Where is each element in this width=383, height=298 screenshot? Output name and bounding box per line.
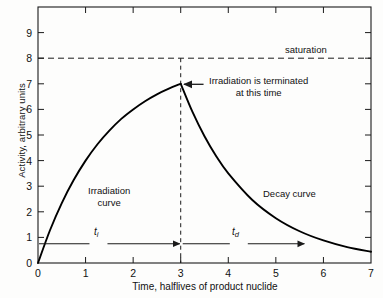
y-tick-label: 8 <box>26 52 32 64</box>
saturation-label: saturation <box>285 44 327 55</box>
termination-annotation-line1: Irradiation is terminated <box>209 75 308 86</box>
irradiation-curve-label-line2: curve <box>98 197 121 208</box>
x-tick-label: 3 <box>178 267 184 279</box>
y-axis-ticks <box>38 33 44 238</box>
irradiation-curve <box>38 84 181 263</box>
x-tick-label: 6 <box>321 267 327 279</box>
t-i-subscript: i <box>97 230 99 239</box>
x-tick-label: 5 <box>273 267 279 279</box>
x-axis-ticks-top <box>86 7 324 13</box>
x-tick-label: 4 <box>225 267 231 279</box>
x-tick-label: 0 <box>35 267 41 279</box>
t-d-subscript: d <box>235 230 239 239</box>
y-tick-label: 1 <box>26 231 32 243</box>
decay-curve <box>181 84 371 252</box>
y-tick-label: 3 <box>26 180 32 192</box>
x-axis-ticks <box>86 257 324 263</box>
t-d-label: td <box>232 226 239 240</box>
decay-curve-label: Decay curve <box>263 188 316 199</box>
y-axis-ticks-right <box>365 33 371 238</box>
x-axis-tick-labels: 01234567 <box>35 267 374 279</box>
y-axis-label: Activity, arbitrary units <box>16 56 27 206</box>
y-tick-label: 9 <box>26 27 32 39</box>
y-tick-label: 0 <box>26 257 32 269</box>
y-tick-label: 2 <box>26 206 32 218</box>
t-i-label: ti <box>94 226 98 240</box>
x-tick-label: 7 <box>368 267 374 279</box>
x-tick-label: 2 <box>130 267 136 279</box>
irradiation-curve-label: Irradiation curve <box>88 185 130 209</box>
y-tick-label: 6 <box>26 103 32 115</box>
termination-annotation-line2: at this time <box>236 87 282 98</box>
y-axis-tick-labels: 0123456789 <box>26 27 32 269</box>
x-tick-label: 1 <box>83 267 89 279</box>
y-tick-label: 7 <box>26 78 32 90</box>
termination-annotation: Irradiation is terminated at this time <box>209 75 308 99</box>
figure-container: 01234567 0123456789 Activity, arbitrary … <box>0 0 383 298</box>
y-tick-label: 5 <box>26 129 32 141</box>
x-axis-label: Time, halflives of product nuclide <box>38 281 372 292</box>
irradiation-curve-label-line1: Irradiation <box>88 185 130 196</box>
y-tick-label: 4 <box>26 155 32 167</box>
